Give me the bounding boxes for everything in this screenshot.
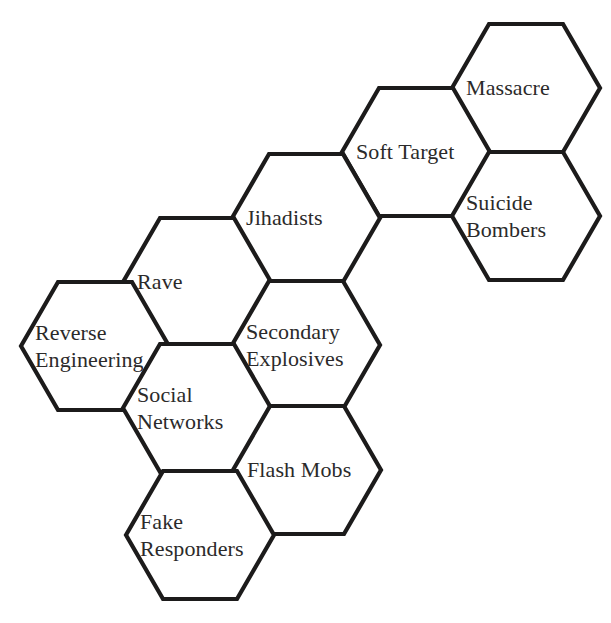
hexagon-label-line: Reverse <box>35 320 107 345</box>
hexagon-label-line: Rave <box>137 269 183 294</box>
hexagon-label-line: Networks <box>137 409 223 434</box>
hexagon-label-flash-mobs: Flash Mobs <box>247 457 351 482</box>
hexagon-label-line: Soft Target <box>356 139 454 164</box>
hexagon-concept-map: MassacreSoft TargetSuicideBombersJihadis… <box>0 0 611 623</box>
hexagon-label-line: Bombers <box>466 217 546 242</box>
hexagon-label-jihadists: Jihadists <box>246 205 323 230</box>
hexagon-label-line: Fake <box>140 509 183 534</box>
hexagon-label-massacre: Massacre <box>466 75 550 100</box>
hexagon-label-line: Explosives <box>246 346 344 371</box>
hexagon-label-soft-target: Soft Target <box>356 139 454 164</box>
hexagon-label-line: Secondary <box>246 319 340 344</box>
hexagon-label-line: Social <box>137 382 193 407</box>
hexagon-label-line: Engineering <box>35 347 144 372</box>
hexagon-label-line: Jihadists <box>246 205 323 230</box>
hexagon-grid-svg: MassacreSoft TargetSuicideBombersJihadis… <box>0 0 611 623</box>
hexagon-label-line: Responders <box>140 536 244 561</box>
hexagon-label-line: Flash Mobs <box>247 457 351 482</box>
hexagon-label-line: Massacre <box>466 75 550 100</box>
hexagon-shapes-layer <box>21 24 600 599</box>
hexagon-label-line: Suicide <box>466 190 533 215</box>
hexagon-label-rave: Rave <box>137 269 183 294</box>
